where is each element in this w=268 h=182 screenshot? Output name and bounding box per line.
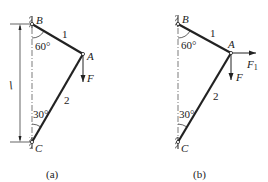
force-f1-label: F1 — [246, 58, 258, 72]
figure-b: B 1 60° A F1 F 2 30° C (b) — [175, 13, 258, 181]
point-c-label: C — [181, 142, 189, 154]
figure-a: l B 1 60° A F 2 30° C (a) — [7, 14, 94, 181]
point-b-label: B — [182, 13, 189, 25]
force-f-label: F — [235, 71, 243, 83]
caption-b: (b) — [193, 168, 206, 181]
rod-1-label: 1 — [210, 27, 216, 39]
angle-arc-30 — [32, 124, 41, 127]
rod-2-label: 2 — [64, 94, 70, 106]
point-b-label: B — [36, 14, 43, 26]
rod-2 — [178, 53, 231, 142]
angle-arc-60 — [178, 31, 190, 38]
angle-30-label: 30° — [179, 108, 194, 120]
point-a-label: A — [227, 38, 235, 50]
pin-b — [176, 22, 179, 25]
pin-a — [229, 51, 232, 54]
pin-b — [30, 22, 33, 25]
dimension-label: l — [7, 78, 14, 93]
angle-30-label: 30° — [33, 108, 48, 120]
point-a-label: A — [86, 50, 94, 62]
rod-1-label: 1 — [62, 28, 68, 40]
pin-c — [30, 140, 33, 143]
truss-diagrams: l B 1 60° A F 2 30° C (a) — [0, 0, 268, 182]
rod-2-label: 2 — [213, 90, 219, 102]
angle-arc-30 — [178, 124, 187, 127]
angle-arc-60 — [32, 31, 44, 38]
angle-60-label: 60° — [181, 39, 196, 51]
force-f-label: F — [86, 72, 94, 84]
rod-2 — [32, 54, 83, 142]
point-c-label: C — [35, 142, 43, 154]
caption-a: (a) — [46, 168, 59, 181]
angle-60-label: 60° — [35, 40, 50, 52]
pin-c — [176, 140, 179, 143]
pin-a — [81, 52, 84, 55]
